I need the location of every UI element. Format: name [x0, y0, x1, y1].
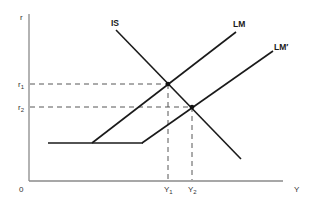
equilibrium-point-1: [166, 82, 171, 87]
is-curve: [116, 30, 241, 159]
y-axis-label: r: [20, 13, 23, 22]
x-axis-label: Y: [294, 185, 300, 194]
r1-label: r1: [18, 80, 25, 90]
origin-label: 0: [19, 185, 24, 194]
islm-diagram: r Y 0 IS LM LM′ r1 r2 Y1 Y2: [0, 0, 317, 201]
lm-label: LM: [233, 19, 245, 29]
y1-label: Y1: [164, 185, 173, 195]
equilibrium-point-2: [190, 105, 195, 110]
is-label: IS: [111, 18, 119, 28]
r2-label: r2: [18, 103, 25, 113]
lm-prime-curve: [142, 51, 273, 143]
y2-label: Y2: [188, 185, 197, 195]
lm-curve: [92, 32, 236, 143]
lm-prime-label: LM′: [274, 42, 288, 52]
